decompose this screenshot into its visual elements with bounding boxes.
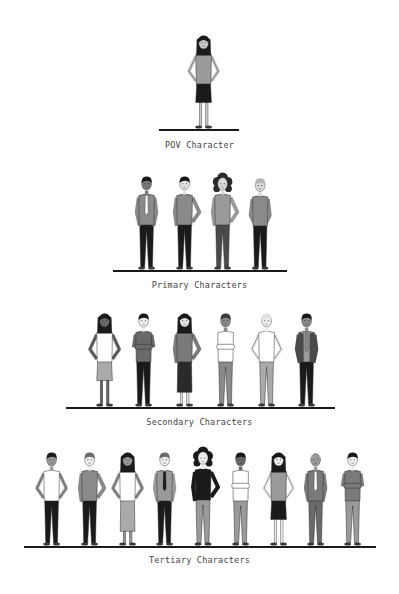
character-figure-tertiary-1 — [32, 449, 71, 547]
character-figure-secondary-5 — [247, 310, 286, 408]
character-figure-secondary-3 — [165, 310, 204, 408]
ground-line — [66, 407, 335, 409]
character-figure-secondary-1 — [85, 310, 124, 408]
character-figure-secondary-2 — [124, 310, 163, 408]
ground-line — [113, 270, 287, 272]
tier-label: Secondary Characters — [0, 417, 399, 427]
character-figure-tertiary-9 — [333, 449, 372, 547]
tier-label: Primary Characters — [0, 280, 399, 290]
character-figure-tertiary-5 — [183, 447, 223, 547]
character-figure-tertiary-7 — [259, 449, 298, 547]
character-figure-primary-2 — [165, 173, 204, 271]
character-figure-pov-1 — [184, 32, 223, 130]
ground-line — [24, 546, 376, 548]
character-figure-secondary-4 — [206, 310, 245, 408]
character-figure-tertiary-8 — [296, 449, 335, 547]
character-figure-tertiary-3 — [108, 449, 147, 547]
character-figure-tertiary-2 — [70, 449, 109, 547]
tier-label: POV Character — [0, 140, 399, 150]
character-figure-tertiary-4 — [145, 449, 184, 547]
tier-label: Tertiary Characters — [0, 555, 399, 565]
character-figure-primary-1 — [127, 173, 166, 271]
character-figure-primary-4 — [241, 175, 279, 271]
character-figure-primary-3 — [203, 173, 242, 271]
character-figure-secondary-6 — [287, 310, 326, 408]
ground-line — [159, 129, 239, 131]
character-figure-tertiary-6 — [221, 449, 260, 547]
